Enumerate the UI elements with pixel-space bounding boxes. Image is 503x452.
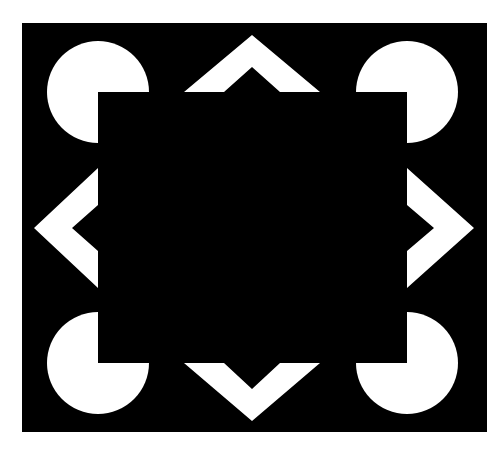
central-square <box>98 92 407 363</box>
figure-svg <box>0 0 503 452</box>
illusory-square-figure <box>0 0 503 452</box>
